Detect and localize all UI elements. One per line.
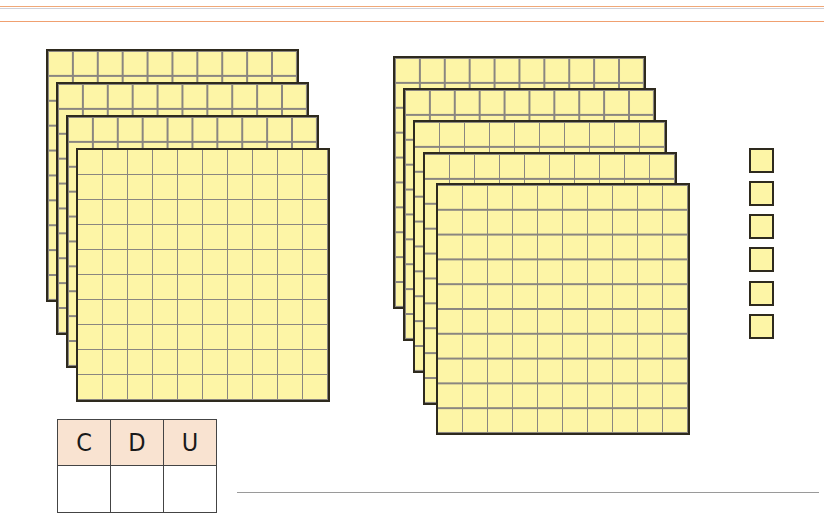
hundred-grid-sheet xyxy=(436,183,690,435)
header-decenas: D xyxy=(111,420,164,466)
answer-cell-unidades[interactable] xyxy=(164,466,217,513)
unit-square xyxy=(749,281,774,306)
header-centenas: C xyxy=(58,420,111,466)
unit-square xyxy=(749,247,774,272)
answer-line[interactable] xyxy=(237,492,819,493)
answer-cell-centenas[interactable] xyxy=(58,466,111,513)
unit-square xyxy=(749,148,774,173)
header-rule-line xyxy=(0,6,824,7)
place-value-table: C D U xyxy=(57,419,217,513)
unit-square xyxy=(749,214,774,239)
header-unidades: U xyxy=(164,420,217,466)
place-value-header-row: C D U xyxy=(58,420,217,466)
answer-cell-decenas[interactable] xyxy=(111,466,164,513)
header-rule-line xyxy=(0,21,824,22)
hundred-grid-sheet xyxy=(76,148,330,402)
unit-square xyxy=(749,181,774,206)
place-value-answer-row xyxy=(58,466,217,513)
header-rule-line xyxy=(0,8,824,9)
unit-square xyxy=(749,314,774,339)
